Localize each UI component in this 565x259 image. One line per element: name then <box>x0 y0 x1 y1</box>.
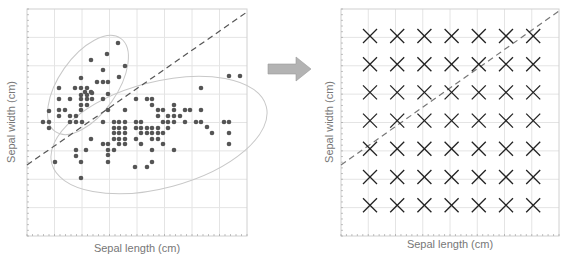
data-point <box>166 126 171 131</box>
data-point <box>123 64 128 69</box>
data-point <box>166 114 171 119</box>
x-mark-icon <box>472 114 486 128</box>
data-point <box>106 153 111 158</box>
x-mark-icon <box>417 170 431 184</box>
x-mark-icon <box>526 114 540 128</box>
data-point <box>41 120 46 125</box>
x-mark-icon <box>417 114 431 128</box>
x-mark-icon <box>417 29 431 43</box>
data-point <box>150 126 155 131</box>
data-point <box>123 142 128 147</box>
data-point <box>161 131 166 136</box>
data-point <box>139 120 144 125</box>
data-point <box>156 131 161 136</box>
data-point <box>139 142 144 147</box>
x-mark-icon <box>526 170 540 184</box>
data-point <box>79 76 84 81</box>
y-axis-label: Sepal width (cm) <box>323 81 335 163</box>
data-point <box>117 126 122 131</box>
cluster-ellipses <box>32 22 280 215</box>
data-point <box>89 58 94 63</box>
data-point <box>172 114 177 119</box>
data-point <box>205 125 210 130</box>
data-point <box>63 108 68 113</box>
data-point <box>227 120 232 125</box>
data-point <box>183 108 188 113</box>
x-mark-icon <box>390 142 404 156</box>
x-mark-icon <box>390 170 404 184</box>
data-point <box>134 120 139 125</box>
data-point <box>123 137 128 142</box>
data-point <box>101 68 106 73</box>
x-mark-icon <box>526 29 540 43</box>
data-point <box>53 160 58 165</box>
data-point <box>161 120 166 125</box>
data-point <box>101 142 106 147</box>
data-point <box>178 114 183 119</box>
data-point <box>150 137 155 142</box>
data-point <box>112 120 117 125</box>
x-mark-icon <box>417 198 431 212</box>
x-mark-icon <box>390 85 404 99</box>
data-point <box>194 120 199 125</box>
data-point <box>101 97 106 102</box>
data-point <box>74 148 79 153</box>
data-point <box>47 120 52 125</box>
x-mark-icon <box>363 198 377 212</box>
diagram-canvas: Sepal length (cm) Sepal width (cm) Sepal… <box>0 0 565 259</box>
data-point <box>74 120 79 125</box>
x-marker-grid <box>363 29 540 212</box>
x-mark-icon <box>445 57 459 71</box>
data-point <box>73 86 78 91</box>
data-point <box>116 41 121 46</box>
data-point <box>150 160 155 165</box>
data-point <box>166 120 171 125</box>
right-grid-plot: Sepal length (cm) Sepal width (cm) <box>323 9 559 250</box>
data-point <box>199 86 204 91</box>
x-mark-icon <box>417 85 431 99</box>
x-mark-icon <box>390 198 404 212</box>
data-point <box>139 131 144 136</box>
data-point <box>150 97 155 102</box>
x-mark-icon <box>526 142 540 156</box>
x-mark-icon <box>499 85 513 99</box>
data-point <box>101 120 106 125</box>
data-point <box>57 114 62 119</box>
data-point <box>106 148 111 153</box>
data-point <box>106 160 111 165</box>
x-mark-icon <box>472 142 486 156</box>
data-point <box>156 114 161 119</box>
data-point <box>57 86 62 91</box>
data-point <box>172 108 177 113</box>
data-point <box>80 120 85 125</box>
data-point <box>95 80 100 85</box>
data-point <box>112 137 117 142</box>
x-mark-icon <box>363 85 377 99</box>
data-point <box>85 97 90 102</box>
data-point <box>105 52 110 57</box>
data-point <box>90 91 95 96</box>
data-point <box>47 109 52 114</box>
data-point <box>172 148 177 153</box>
x-mark-icon <box>472 170 486 184</box>
x-mark-icon <box>499 57 513 71</box>
data-point <box>106 142 111 147</box>
data-point <box>79 103 84 108</box>
data-point <box>183 120 188 125</box>
data-point <box>145 131 150 136</box>
data-point <box>156 126 161 131</box>
data-point <box>227 131 232 136</box>
x-mark-icon <box>363 170 377 184</box>
x-mark-icon <box>417 142 431 156</box>
data-point <box>47 126 52 131</box>
data-point <box>172 120 177 125</box>
data-point <box>112 148 117 153</box>
data-point <box>117 131 122 136</box>
data-point <box>79 160 84 165</box>
data-point <box>85 93 90 98</box>
data-point <box>74 154 79 159</box>
data-point <box>156 108 161 113</box>
x-mark-icon <box>472 198 486 212</box>
x-mark-icon <box>526 57 540 71</box>
x-mark-icon <box>363 29 377 43</box>
